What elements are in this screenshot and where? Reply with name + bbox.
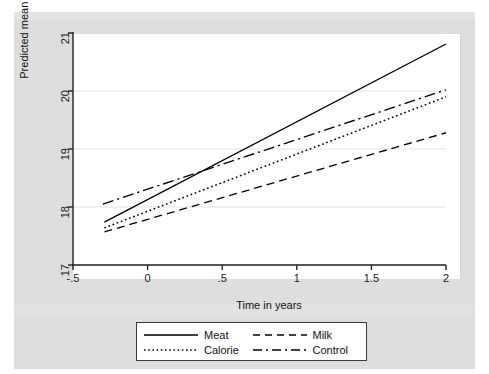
x-tick-label: 1 <box>277 272 317 284</box>
x-tick-label: 0 <box>128 272 168 284</box>
data-series <box>103 44 446 232</box>
series-line-milk <box>104 133 446 232</box>
series-line-calorie <box>104 97 446 228</box>
x-tick-label: 1.5 <box>351 272 391 284</box>
figure-container: Predicted mean Raven's score Time in yea… <box>0 0 489 374</box>
y-tick-label: 20 <box>59 90 71 116</box>
series-line-meat <box>104 44 446 222</box>
y-tick-label: 19 <box>59 148 71 174</box>
x-tick-label: .5 <box>202 272 242 284</box>
x-tick-label: -.5 <box>53 272 93 284</box>
tick-marks <box>68 33 446 270</box>
gridlines <box>73 33 446 265</box>
x-tick-label: 2 <box>426 272 466 284</box>
chart-canvas <box>0 0 489 374</box>
y-tick-label: 21 <box>59 32 71 58</box>
series-line-control <box>103 90 446 204</box>
y-tick-label: 18 <box>59 206 71 232</box>
